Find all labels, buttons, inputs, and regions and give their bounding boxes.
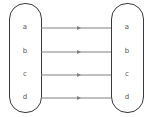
domain-element-a: a xyxy=(17,23,33,31)
codomain-element-a: a xyxy=(119,23,135,31)
arrow-c-to-c xyxy=(41,73,111,77)
domain-element-d: d xyxy=(17,93,33,101)
codomain-element-c: c xyxy=(119,70,135,78)
domain-element-c: c xyxy=(17,70,33,78)
arrowhead-icon xyxy=(77,26,81,30)
mapping-diagram: a b c d a b c d xyxy=(0,0,148,117)
codomain-element-b: b xyxy=(119,47,135,55)
arrowhead-icon xyxy=(77,50,81,54)
domain-element-b: b xyxy=(17,47,33,55)
arrowhead-icon xyxy=(77,96,81,100)
arrow-a-to-a xyxy=(41,26,111,30)
codomain-element-d: d xyxy=(119,93,135,101)
arrowhead-icon xyxy=(77,73,81,77)
arrow-b-to-b xyxy=(41,50,111,54)
arrow-d-to-d xyxy=(41,96,111,100)
